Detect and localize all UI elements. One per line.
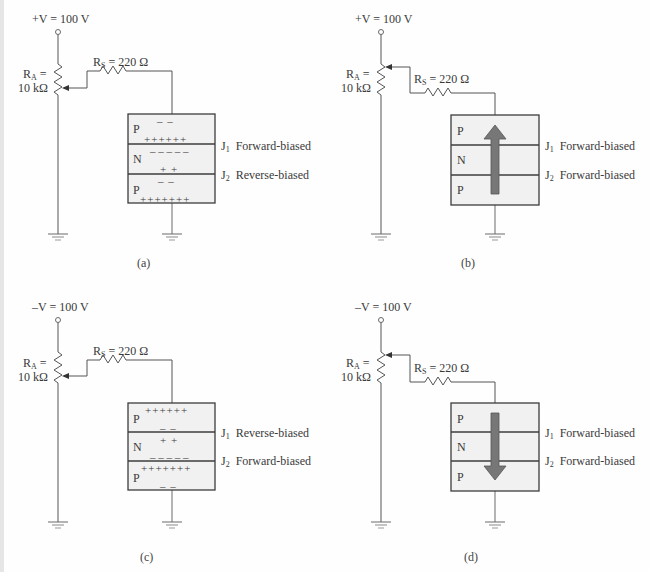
ra-label: RA = <box>23 68 47 81</box>
potentiometer-ra-icon <box>54 323 62 523</box>
ra-value: 10 kΩ <box>18 82 48 95</box>
rs-value: = 220 Ω <box>426 72 469 86</box>
j2-subscript: 2 <box>226 174 230 183</box>
j1-state: Forward-biased <box>236 139 311 153</box>
j2-state: Forward-biased <box>560 454 635 468</box>
panel-caption: (c) <box>140 550 153 565</box>
panel-b-circuit <box>371 30 539 241</box>
supply-voltage-label: +V = 100 V <box>355 13 412 26</box>
layer-p1-label: P <box>133 122 140 137</box>
ra-symbol: R <box>23 67 31 81</box>
potentiometer-ra-icon <box>377 35 385 235</box>
rs-label: RS = 220 Ω <box>93 56 148 69</box>
j2-subscript: 2 <box>550 460 554 469</box>
ra-equals: = <box>37 356 47 370</box>
wiper-arrow-icon <box>62 373 69 379</box>
charge-n-top: – – – – – <box>150 146 189 156</box>
supply-voltage-label: +V = 100 V <box>32 13 89 26</box>
charge-n-top: + + <box>160 435 178 445</box>
junction-j2-label: J2 Forward-biased <box>545 455 635 468</box>
layer-p2-label: P <box>133 471 140 486</box>
rs-value: = 220 Ω <box>105 55 148 69</box>
ground-icon <box>485 234 505 240</box>
supply-terminal-icon <box>379 318 384 323</box>
ra-value: 10 kΩ <box>341 82 371 95</box>
ground-icon <box>371 234 391 240</box>
layer-p1-label: P <box>133 412 140 427</box>
layer-p2-label: P <box>133 183 140 198</box>
layer-n-label: N <box>457 153 466 168</box>
charge-p2-top: – – <box>158 176 175 186</box>
j1-state: Forward-biased <box>560 426 635 440</box>
supply-voltage-label: –V = 100 V <box>32 301 89 314</box>
j1-subscript: 1 <box>226 145 230 154</box>
junction-j2-label: J2 Forward-biased <box>221 455 311 468</box>
ra-equals: = <box>360 67 370 81</box>
layer-n-label: N <box>133 440 142 455</box>
junction-j1-label: J1 Reverse-biased <box>221 427 309 440</box>
layer-n-label: N <box>457 440 466 455</box>
ra-label: RA = <box>346 68 370 81</box>
j1-state: Forward-biased <box>560 139 635 153</box>
wiper-arrow-icon <box>385 352 392 358</box>
panel-caption: (b) <box>461 256 475 271</box>
j2-state: Forward-biased <box>560 168 635 182</box>
potentiometer-ra-icon <box>54 35 62 235</box>
ground-icon <box>48 522 68 528</box>
supply-voltage-label: –V = 100 V <box>355 301 412 314</box>
layer-p2-label: P <box>457 183 464 198</box>
charge-n-bottom: – – – – – <box>150 452 189 462</box>
rs-value: = 220 Ω <box>426 361 469 375</box>
charge-n-bottom: + + <box>160 164 178 174</box>
potentiometer-ra-icon <box>377 323 385 523</box>
rs-symbol: R <box>414 72 422 86</box>
j2-state: Reverse-biased <box>236 168 309 182</box>
ra-value: 10 kΩ <box>18 371 48 384</box>
panel-caption: (a) <box>137 256 150 271</box>
junction-j1-label: J1 Forward-biased <box>545 140 635 153</box>
wiper-arrow-icon <box>62 85 69 91</box>
charge-p2-bottom: – – <box>160 481 177 491</box>
j1-subscript: 1 <box>550 432 554 441</box>
layer-n-label: N <box>133 152 142 167</box>
rs-symbol: R <box>93 344 101 358</box>
supply-terminal-icon <box>56 318 61 323</box>
charge-p1-bottom: ++++++ <box>144 134 187 144</box>
junction-j2-label: J2 Reverse-biased <box>221 169 309 182</box>
layer-p2-label: P <box>457 470 464 485</box>
charge-p2-bottom: +++++++ <box>140 194 190 204</box>
ra-equals: = <box>360 356 370 370</box>
charge-p1-top: – – <box>157 116 174 126</box>
panel-caption: (d) <box>464 550 478 565</box>
layer-p1-label: P <box>457 124 464 139</box>
supply-terminal-icon <box>379 30 384 35</box>
rs-label: RS = 220 Ω <box>414 73 469 86</box>
ra-label: RA = <box>23 357 47 370</box>
ra-symbol: R <box>346 67 354 81</box>
rs-value: = 220 Ω <box>105 344 148 358</box>
ground-icon <box>485 522 505 528</box>
charge-p2-top: +++++++ <box>141 463 191 473</box>
junction-j1-label: J1 Forward-biased <box>221 140 311 153</box>
j1-state: Reverse-biased <box>236 426 309 440</box>
supply-terminal-icon <box>56 30 61 35</box>
charge-p1-top: ++++++ <box>145 405 188 415</box>
ra-value: 10 kΩ <box>341 371 371 384</box>
series-resistor-rs-icon <box>67 66 172 114</box>
j2-subscript: 2 <box>226 460 230 469</box>
ground-icon <box>48 234 68 240</box>
j1-subscript: 1 <box>550 145 554 154</box>
rs-symbol: R <box>414 361 422 375</box>
panel-d-circuit <box>371 318 539 529</box>
ra-label: RA = <box>346 357 370 370</box>
j2-subscript: 2 <box>550 174 554 183</box>
charge-p1-bottom: – – <box>160 423 177 433</box>
junction-j2-label: J2 Forward-biased <box>545 169 635 182</box>
ground-icon <box>162 522 182 528</box>
layer-p1-label: P <box>457 412 464 427</box>
j2-state: Forward-biased <box>236 454 311 468</box>
rs-label: RS = 220 Ω <box>414 362 469 375</box>
ground-icon <box>162 234 182 240</box>
ra-symbol: R <box>23 356 31 370</box>
rs-symbol: R <box>93 55 101 69</box>
